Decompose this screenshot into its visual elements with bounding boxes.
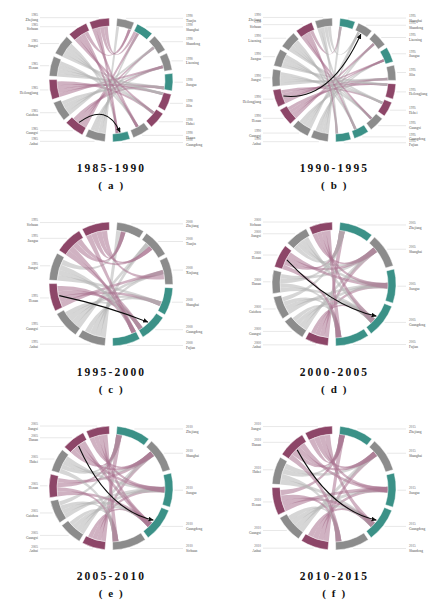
arc-label-name: Anhui <box>252 142 261 146</box>
arc-label-name: Heilongjiang <box>20 91 39 95</box>
chord-canvas-c: 2000Zhejiang2000Tianjin2000Xinjiang2000S… <box>0 204 223 370</box>
arc-label-name: Henan <box>252 256 261 260</box>
arc-label-name: Jiangsu <box>186 83 197 87</box>
arc-label-name: Anhui <box>252 549 261 553</box>
arc-label-name: Hubei <box>29 460 38 464</box>
chord-canvas-b: 1995Shanghai1995Shandong1995Liaoning1995… <box>223 0 446 166</box>
chord-arc <box>113 131 131 142</box>
arc-label-name: Shanghai <box>186 454 199 458</box>
panel-title-c: 1995-2000 <box>0 366 223 379</box>
arc-label-year: 2000 <box>254 230 261 234</box>
arc-label-year: 2005 <box>409 245 416 249</box>
arc-label-year: 2000 <box>186 325 193 329</box>
panel-caption-c: 1995-2000( c ) <box>0 366 223 395</box>
arc-label-year: 1990 <box>186 131 193 135</box>
panel-b: 1995Shanghai1995Shandong1995Liaoning1995… <box>223 0 446 204</box>
arc-label-name: Xinjiang <box>186 271 198 275</box>
chord-arc <box>149 36 165 54</box>
arc-label-year: 2005 <box>409 340 416 344</box>
arc-label-name: Jiangxi <box>28 266 38 270</box>
arc-label-name: Shanghai <box>409 250 422 254</box>
arc-label-name: Jiangsu <box>251 57 262 61</box>
panel-title-d: 2000-2005 <box>223 366 446 379</box>
panel-d: 2005Zhejiang2005Shanghai2005Jiangsu2005G… <box>223 204 446 408</box>
arc-label-year: 1995 <box>31 294 38 298</box>
arc-label-year: 1990 <box>254 114 261 118</box>
arc-label-year: 1985 <box>31 39 38 43</box>
arc-label-year: 1995 <box>409 133 416 137</box>
panel-letter-b: ( b ) <box>223 179 446 191</box>
arc-label-name: Jiangsu <box>186 491 197 495</box>
chord-arc <box>130 123 148 138</box>
arc-label-name: Guangxi <box>249 134 261 138</box>
arc-label-name: Guangxi <box>26 327 38 331</box>
arc-label-name: Jiangsu <box>409 54 420 58</box>
arc-label-year: 2005 <box>409 221 416 225</box>
chord-arc <box>158 287 173 314</box>
arc-label-name: Liaoning <box>248 39 261 43</box>
panel-c: 2000Zhejiang2000Tianjin2000Xinjiang2000S… <box>0 204 223 408</box>
chord-arc <box>158 92 171 110</box>
arc-label-name: Sichuan <box>27 223 39 227</box>
arc-label-year: 2010 <box>186 544 193 548</box>
arc-label-year: 2005 <box>31 422 38 426</box>
arc-label-name: Anhui <box>29 549 38 553</box>
arc-label-name: Zhejiang <box>186 430 199 434</box>
chord-arc <box>139 313 163 337</box>
arc-label-year: 2000 <box>254 305 261 309</box>
arc-label-year: 2010 <box>186 425 193 429</box>
chord-canvas-a: 1990Tianjin1990Shanghai1990Shandong1990L… <box>0 0 223 166</box>
arc-label-year: 1990 <box>254 52 261 56</box>
arc-label-year: 1995 <box>31 234 38 238</box>
arc-label-name: Heilongjiang <box>409 92 428 96</box>
panel-letter-f: ( f ) <box>223 587 446 599</box>
arc-label-name: Guangdong <box>409 323 426 327</box>
panel-caption-d: 2000-2005( d ) <box>223 366 446 395</box>
arc-label-name: Shanghai <box>186 303 199 307</box>
chord-canvas-e: 2010Zhejiang2010Shanghai2010Jiangsu2010G… <box>0 408 223 574</box>
arc-label-year: 2010 <box>186 522 193 526</box>
arc-label-year: 1990 <box>254 74 261 78</box>
arc-label-year: 2000 <box>186 220 193 224</box>
chord-canvas-d: 2005Zhejiang2005Shanghai2005Jiangsu2005G… <box>223 204 446 370</box>
arc-label-name: Sichuan <box>250 25 262 29</box>
arc-label-year: 1995 <box>409 121 416 125</box>
panel-letter-a: ( a ) <box>0 179 223 191</box>
chord-canvas-f: 2015Zhejiang2015Shanghai2015Jiangsu2015G… <box>223 408 446 574</box>
arc-label-year: 2005 <box>409 318 416 322</box>
arc-label-name: Hubei <box>252 470 261 474</box>
chord-svg-f: 2015Zhejiang2015Shanghai2015Jiangsu2015G… <box>223 408 446 574</box>
arc-label-name: Henan <box>29 486 38 490</box>
arc-label-name: Zhejiang <box>409 226 422 230</box>
arc-label-year: 2010 <box>254 438 261 442</box>
arc-label-year: 1995 <box>409 106 416 110</box>
chord-arc <box>272 69 281 87</box>
arc-label-name: Sichuan <box>186 549 198 553</box>
arc-label-year: 2005 <box>31 509 38 513</box>
arc-label-year: 1990 <box>186 78 193 82</box>
arc-label-year: 2000 <box>254 278 261 282</box>
arc-label-name: Shandong <box>409 26 423 30</box>
arc-label-name: Fujian <box>409 345 418 349</box>
panel-title-a: 1985-1990 <box>0 162 223 175</box>
panel-caption-a: 1985-1990( a ) <box>0 162 223 191</box>
arc-label-name: Tianjin <box>186 242 196 246</box>
arc-label-name: Jiangsu <box>28 239 39 243</box>
chord-arc <box>113 332 140 346</box>
chord-arc <box>164 73 173 91</box>
arc-label-name: Guizhou <box>249 310 261 314</box>
arc-label-year: 2010 <box>254 466 261 470</box>
arc-label-year: 2000 <box>254 251 261 255</box>
arc-label-year: 2005 <box>31 455 38 459</box>
panel-f: 2015Zhejiang2015Shanghai2015Jiangsu2015G… <box>223 408 446 614</box>
arc-label-year: 1990 <box>186 57 193 61</box>
panel-letter-e: ( e ) <box>0 587 223 599</box>
arc-label-year: 2005 <box>31 531 38 535</box>
arc-label-name: Jiangsu <box>409 491 420 495</box>
arc-label-year: 1990 <box>186 138 193 142</box>
arc-label-year: 2010 <box>254 544 261 548</box>
arc-label-name: Henan <box>29 299 38 303</box>
panel-caption-b: 1990-1995( b ) <box>223 162 446 191</box>
arc-label-year: 1985 <box>31 13 38 17</box>
arc-label-year: 2015 <box>409 522 416 526</box>
